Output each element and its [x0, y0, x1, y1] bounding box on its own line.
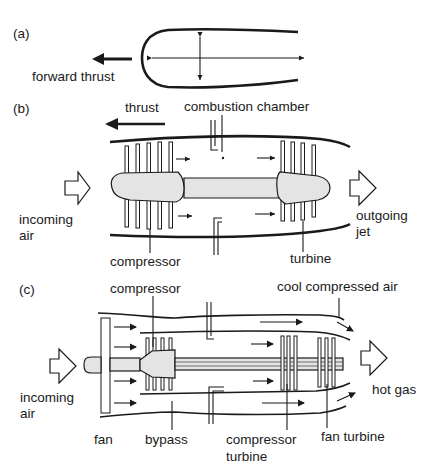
- turbine-label-b: turbine: [290, 251, 331, 266]
- hot-gas-arrow-icon: [361, 341, 387, 375]
- compressor-label-b: compressor: [110, 254, 181, 269]
- combustion-chamber-label: combustion chamber: [184, 99, 310, 114]
- cool-compressed-air-label: cool compressed air: [277, 279, 398, 294]
- panel-a-label: (a): [13, 26, 30, 41]
- hot-gas-label: hot gas: [372, 382, 417, 397]
- incoming-air-c-line2: air: [20, 406, 36, 421]
- jet-engine-diagram: (a) forward thrust (b) thrust combustion…: [0, 0, 441, 472]
- compressor-turbine-line1: compressor: [226, 432, 297, 447]
- casing-bottom: [110, 224, 350, 237]
- forward-thrust-arrow-icon: [92, 53, 132, 65]
- outgoing-jet-arrow-icon: [350, 171, 376, 205]
- fan-turbine-label: fan turbine: [321, 429, 385, 444]
- incoming-air-arrow-icon: [65, 172, 90, 204]
- fan-nosecone: [84, 357, 101, 373]
- incoming-air-b-line1: incoming: [19, 212, 73, 227]
- outgoing-jet-line1: outgoing: [356, 208, 408, 223]
- incoming-air-b-line2: air: [19, 228, 35, 243]
- compressor-label-c: compressor: [110, 281, 181, 296]
- outer-duct-bottom: [100, 406, 346, 417]
- outgoing-jet-line2: jet: [355, 224, 371, 239]
- outer-duct-top: [98, 313, 344, 320]
- panel-b: (b) thrust combustion chamber: [13, 99, 408, 269]
- panel-b-label: (b): [13, 101, 30, 116]
- pressure-arrows-icon: [152, 37, 304, 80]
- fan-turbine-blades: [318, 338, 335, 387]
- fan-blade: [101, 318, 110, 413]
- incoming-air-c-line1: incoming: [20, 390, 74, 405]
- panel-c: (c) compressor cool compressed air: [19, 279, 417, 464]
- compressor-turbine-blades: [281, 336, 297, 390]
- engine-spool-b: [111, 172, 330, 204]
- compressor-turbine-line2: turbine: [226, 449, 267, 464]
- thrust-label: thrust: [125, 100, 159, 115]
- fan-label: fan: [94, 432, 113, 447]
- panel-a: (a) forward thrust: [13, 26, 304, 87]
- thrust-arrow-icon: [105, 118, 165, 130]
- bypass-label: bypass: [145, 432, 188, 447]
- forward-thrust-label: forward thrust: [32, 69, 115, 84]
- panel-c-label: (c): [19, 282, 35, 297]
- incoming-air-arrow-c-icon: [50, 349, 76, 383]
- compressor-cone-c: [140, 350, 175, 378]
